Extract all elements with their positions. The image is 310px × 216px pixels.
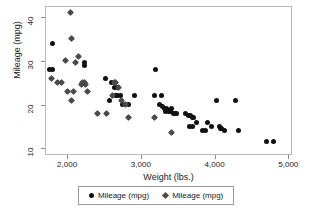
data-point [68,97,75,104]
data-point [72,59,79,66]
x-tick [288,155,289,159]
y-tick-label: 10 [26,148,35,178]
data-point [84,88,91,95]
data-point [132,93,137,98]
y-tick-label: 30 [26,60,35,90]
x-tick-label: 4,000 [192,160,238,169]
legend-label: Mileage (mpg) [172,191,223,200]
data-point [50,67,55,72]
data-point [187,124,192,129]
data-point [103,110,110,117]
y-tick [41,61,45,62]
y-tick [41,105,45,106]
x-tick-label: 5,000 [265,160,310,169]
data-point [50,41,55,46]
x-tick [215,155,216,159]
data-point [125,114,132,121]
data-point [151,114,158,121]
scatter-chart: 2,0003,0004,0005,000 10203040 Weight (lb… [0,0,310,216]
data-point [233,98,238,103]
x-tick [67,155,68,159]
data-point [115,84,122,91]
diamond-marker-icon [162,192,169,199]
data-point [168,129,175,136]
y-axis-title: Mileage (mpg) [12,5,22,95]
data-point [82,60,87,65]
y-tick [41,17,45,18]
data-point [214,98,219,103]
data-point [236,128,241,133]
x-tick [141,155,142,159]
data-point [203,128,208,133]
y-tick-label: 40 [26,16,35,46]
plot-data-area [45,6,292,155]
chart-legend: Mileage (mpg)Mileage (mpg) [78,186,234,205]
legend-item[interactable]: Mileage (mpg) [163,191,223,200]
data-point [62,57,69,64]
data-point [69,88,76,95]
x-tick-label: 2,000 [44,160,90,169]
data-point [94,110,101,117]
data-point [153,67,158,72]
data-point [159,93,164,98]
data-point [152,93,157,98]
data-point [209,124,214,129]
data-point [68,35,75,42]
legend-item[interactable]: Mileage (mpg) [89,191,149,200]
data-point [271,139,276,144]
data-point [222,128,227,133]
y-tick [41,148,45,149]
legend-label: Mileage (mpg) [98,191,149,200]
data-point [174,111,179,116]
data-point [264,139,269,144]
circle-marker-icon [89,193,94,198]
data-point [194,120,199,125]
data-point [103,76,108,81]
data-point [58,79,65,86]
data-point [67,9,74,16]
y-tick-label: 20 [26,104,35,134]
x-axis-title: Weight (lbs.) [45,172,292,182]
x-tick-label: 3,000 [118,160,164,169]
